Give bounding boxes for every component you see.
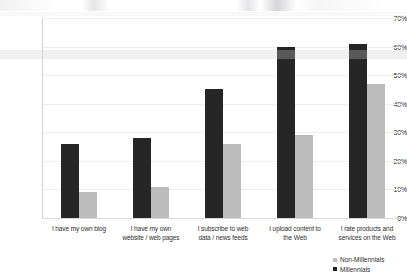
legend-label: Non-Millennials xyxy=(340,255,384,265)
x-axis-category-label: I subscribe to webdata / news feeds xyxy=(183,225,263,242)
legend-swatch-icon xyxy=(333,258,337,262)
bar-group xyxy=(331,18,403,218)
legend-swatch-icon xyxy=(333,267,337,271)
x-axis-category-label: I have my ownwebsite / web pages xyxy=(111,225,191,242)
category-label-line: I have my own blog xyxy=(39,225,119,234)
bar-non-millennials xyxy=(295,135,313,218)
grouped-bar-chart: 0%10%20%30%40%50%60%70% I have my own bl… xyxy=(0,0,407,278)
category-label-line: website / web pages xyxy=(111,234,191,243)
bar-millennials xyxy=(349,44,367,218)
category-label-line: the Web xyxy=(255,234,335,243)
legend-item[interactable]: Non-Millennials xyxy=(333,255,384,265)
bar-non-millennials xyxy=(367,84,385,218)
legend-item[interactable]: Millennials xyxy=(333,265,384,275)
bar-millennials xyxy=(277,47,295,218)
x-axis-category-label: I have my own blog xyxy=(39,225,119,234)
legend-label: Millennials xyxy=(340,265,370,275)
bar-group xyxy=(187,18,259,218)
plot-area xyxy=(43,18,403,218)
category-label-line: I rate products and xyxy=(327,225,407,234)
category-label-line: I subscribe to web xyxy=(183,225,263,234)
category-label-line: I upload content to xyxy=(255,225,335,234)
chart-legend: Non-MillennialsMillennials xyxy=(333,255,384,274)
x-axis-category-label: I upload content tothe Web xyxy=(255,225,335,242)
category-label-line: I have my own xyxy=(111,225,191,234)
bar-group xyxy=(115,18,187,218)
bar-millennials xyxy=(61,144,79,218)
x-axis-category-label: I rate products andservices on the Web xyxy=(327,225,407,242)
x-axis-line xyxy=(42,218,403,219)
bar-non-millennials xyxy=(79,192,97,218)
category-label-line: data / news feeds xyxy=(183,234,263,243)
bar-millennials xyxy=(133,138,151,218)
bar-group xyxy=(259,18,331,218)
bar-millennials xyxy=(205,89,223,218)
bar-non-millennials xyxy=(223,144,241,218)
category-label-line: services on the Web xyxy=(327,234,407,243)
bar-non-millennials xyxy=(151,187,169,218)
bar-group xyxy=(43,18,115,218)
